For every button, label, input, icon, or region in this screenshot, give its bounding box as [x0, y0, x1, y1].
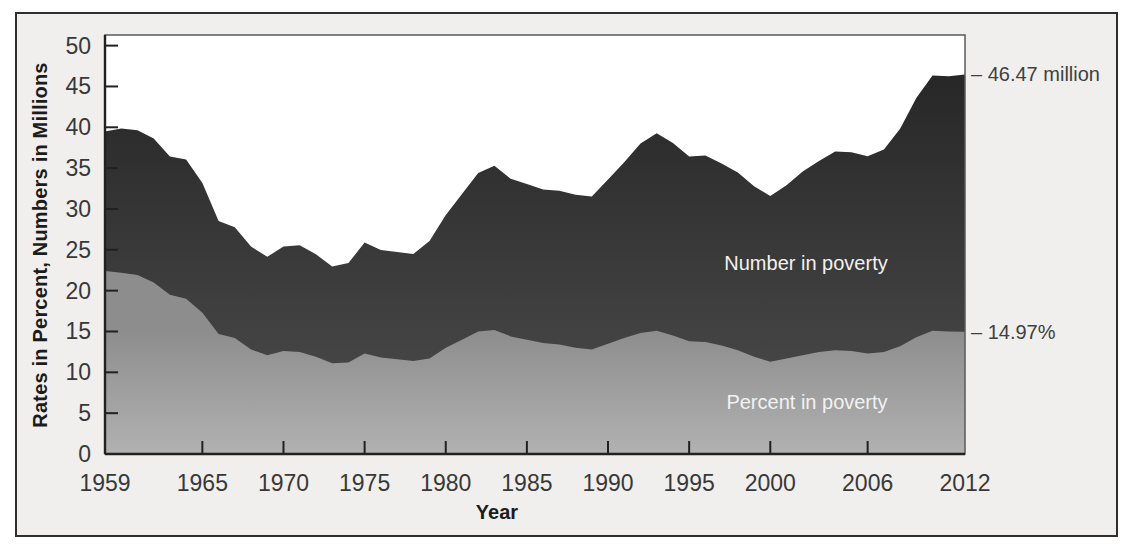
- svg-text:5: 5: [78, 400, 91, 426]
- svg-text:20: 20: [65, 278, 91, 304]
- svg-text:1975: 1975: [339, 470, 390, 496]
- svg-text:45: 45: [65, 73, 91, 99]
- svg-text:50: 50: [65, 33, 91, 59]
- svg-text:40: 40: [65, 114, 91, 140]
- svg-text:1995: 1995: [664, 470, 715, 496]
- annotation-number-latest-value: – 46.47 million: [971, 63, 1100, 86]
- svg-text:30: 30: [65, 196, 91, 222]
- svg-text:1965: 1965: [177, 470, 228, 496]
- poverty-chart-page: 0510152025303540455019591965197019751980…: [0, 0, 1136, 553]
- svg-text:1980: 1980: [420, 470, 471, 496]
- svg-text:1959: 1959: [79, 470, 130, 496]
- area-chart-plot: 0510152025303540455019591965197019751980…: [0, 0, 1136, 553]
- series-label-number-in-poverty: Number in poverty: [724, 252, 887, 275]
- x-axis-title: Year: [476, 501, 518, 524]
- svg-text:35: 35: [65, 155, 91, 181]
- svg-text:2006: 2006: [842, 470, 893, 496]
- svg-text:10: 10: [65, 359, 91, 385]
- svg-text:2000: 2000: [745, 470, 796, 496]
- svg-text:0: 0: [78, 441, 91, 467]
- svg-text:15: 15: [65, 318, 91, 344]
- series-label-percent-in-poverty: Percent in poverty: [726, 391, 887, 414]
- svg-text:1990: 1990: [582, 470, 633, 496]
- svg-text:25: 25: [65, 237, 91, 263]
- svg-text:2012: 2012: [939, 470, 990, 496]
- annotation-percent-latest-value: – 14.97%: [971, 320, 1056, 343]
- y-axis-title: Rates in Percent, Numbers in Millions: [29, 62, 52, 427]
- svg-text:1985: 1985: [501, 470, 552, 496]
- svg-text:1970: 1970: [258, 470, 309, 496]
